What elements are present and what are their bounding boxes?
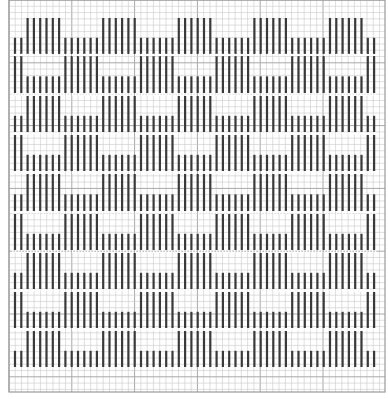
weave-draft-canvas	[0, 0, 388, 399]
